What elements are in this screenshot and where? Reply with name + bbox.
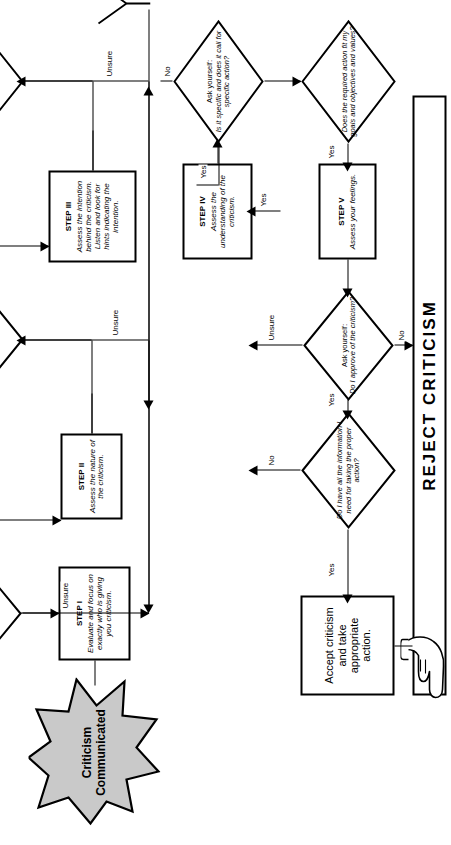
accept-label: Accept criticism and take appropriate ac… (322, 601, 371, 689)
decision-7-question: Do I have all the information I need for… (334, 421, 360, 519)
step-5-heading: STEP V (337, 173, 346, 249)
step-2-body: Assess the nature of the criticism. (87, 440, 105, 513)
decision-4-prefix: Ask yourself: (204, 60, 213, 103)
edge-label-d4-no: No (162, 65, 171, 77)
step-5-box: STEP V Assess your feelings. (318, 163, 376, 259)
edge-label-d4-yes: Yes (198, 164, 207, 179)
edge-label-d7-yes: Yes (326, 562, 335, 577)
edge-label-d6-no: No (396, 329, 405, 341)
decision-1: Ask yourself: Will accept getting critic… (0, 559, 22, 667)
decision-5: Does the required action fit my goals an… (300, 19, 396, 143)
step-3-heading: STEP III (64, 175, 73, 257)
step-5-body: Assess your feelings. (347, 173, 356, 249)
decision-4: Ask yourself: Is it specific and does it… (172, 19, 264, 143)
reject-criticism-bar-bottom: REJECT CRITICISM (412, 95, 446, 695)
edge-label-d6-unsure: Unsure (266, 313, 275, 341)
reject-bottom-label: REJECT CRITICISM (419, 300, 439, 491)
pointing-hand-icon-accept (400, 633, 451, 699)
edge-label-d2-unsure: Unsure (110, 308, 119, 336)
decision-6-question: Do I approve of the criticism? (347, 296, 356, 393)
edge-label-d6-yes: Yes (326, 392, 335, 407)
edge-label-step4-yes: Yes (258, 192, 267, 207)
edge-label-d1-unsure: Unsure (60, 581, 69, 609)
edge-label-d7-no: No (266, 454, 275, 466)
step-4-heading: STEP IV (198, 168, 207, 254)
decision-5-question: Does the required action fit my goals an… (339, 26, 356, 137)
decision-7: Do I have all the information I need for… (300, 411, 396, 529)
edge-label-d3-unsure: Unsure (104, 49, 113, 77)
decision-6: Ask yourself: Do I approve of the critic… (302, 289, 394, 401)
start-label-line2: Communicated (94, 709, 108, 796)
start-label-line1: Criticism (80, 726, 94, 777)
starburst-icon: Criticism Communicated (28, 677, 160, 827)
step-2-box: STEP II Assess the nature of the critici… (60, 433, 122, 519)
decision-4-question: Is it specific and does it call for spec… (213, 30, 230, 132)
step-3-box: STEP III Assess the intention behind the… (48, 170, 136, 262)
step-4-box: STEP IV Assess the understanding of the … (182, 163, 252, 259)
decision-6-prefix: Ask yourself: (339, 324, 348, 367)
accept-box: Accept criticism and take appropriate ac… (300, 595, 394, 695)
step-3-body: Assess the intention behind the criticis… (74, 180, 119, 252)
step-2-heading: STEP II (77, 438, 86, 514)
spine-y-junction (96, 0, 150, 25)
edge-label-d5-yes: Yes (326, 144, 335, 159)
